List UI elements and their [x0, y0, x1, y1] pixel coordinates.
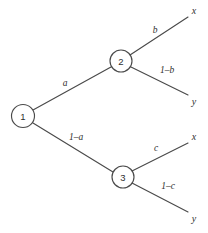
edge-label-a: a: [63, 78, 68, 88]
edge-label-b: b: [153, 25, 158, 35]
outcome-label-x-bottom: x: [191, 131, 197, 142]
outcome-label-y-bottom: y: [191, 213, 197, 224]
branch-line-node2-outcome-x: [130, 17, 188, 55]
branch-line-node1-node2: [33, 67, 111, 110]
edge-label-one-minus-a: 1–a: [69, 132, 84, 142]
edge-label-one-minus-b: 1–b: [160, 65, 175, 75]
node-label-2: 2: [118, 56, 123, 67]
tree-diagram-canvas: 1 2 3 a 1–a b 1–b c 1–c x y x y: [0, 0, 208, 233]
probability-tree-diagram: 1 2 3 a 1–a b 1–b c 1–c x y x y: [0, 0, 208, 233]
branch-line-node3-outcome-y: [132, 183, 188, 212]
node-label-1: 1: [20, 111, 25, 122]
edge-label-one-minus-c: 1–c: [161, 181, 176, 191]
branch-line-node1-node3: [33, 123, 113, 172]
outcome-label-x-top: x: [191, 5, 197, 16]
branch-line-node3-outcome-x: [132, 143, 188, 171]
outcome-label-y-top: y: [191, 96, 197, 107]
edge-label-c: c: [154, 143, 159, 153]
node-label-3: 3: [120, 172, 125, 183]
